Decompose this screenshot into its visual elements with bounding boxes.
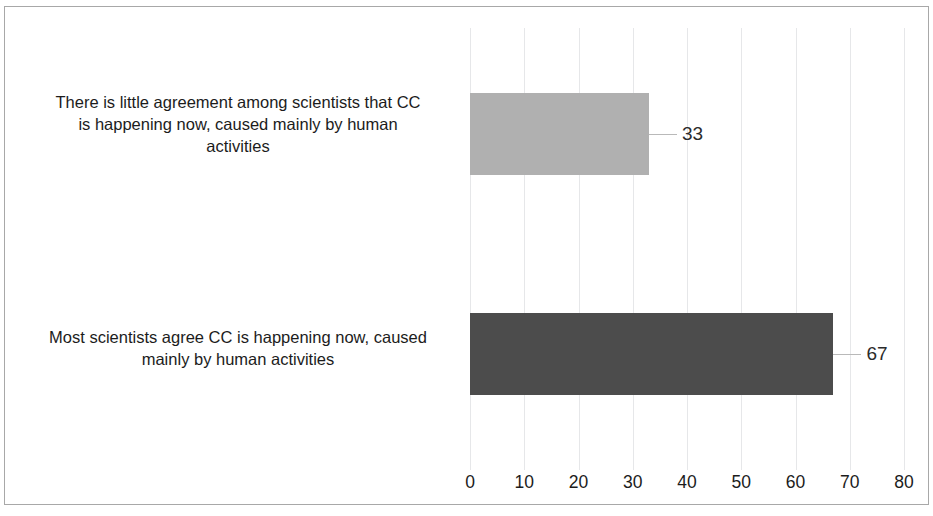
gridline-70 (850, 28, 851, 470)
category-label-2-line-1: Most scientists agree CC is happening no… (14, 327, 462, 349)
leader-line-2 (833, 354, 861, 355)
gridline-50 (741, 28, 742, 470)
x-tick-label-10: 10 (515, 474, 534, 492)
x-tick-label-40: 40 (677, 474, 696, 492)
gridline-40 (687, 28, 688, 470)
x-tick-label-60: 60 (786, 474, 805, 492)
x-tick-label-80: 80 (894, 474, 913, 492)
category-label-1-line-3: activities (14, 136, 462, 158)
plot-area (470, 28, 904, 470)
x-axis-tick-labels: 01020304050607080 (470, 474, 904, 502)
x-tick-label-20: 20 (569, 474, 588, 492)
category-label-1: There is little agreement among scientis… (14, 92, 462, 158)
x-tick-label-50: 50 (732, 474, 751, 492)
bar-1 (470, 93, 649, 175)
x-tick-label-30: 30 (623, 474, 642, 492)
category-label-1-line-2: is happening now, caused mainly by human (14, 114, 462, 136)
data-label-1: 33 (682, 124, 703, 143)
gridline-60 (796, 28, 797, 470)
category-label-1-line-1: There is little agreement among scientis… (14, 92, 462, 114)
data-label-2: 67 (866, 344, 887, 363)
bar-2 (470, 313, 833, 395)
leader-line-1 (649, 134, 677, 135)
category-label-2: Most scientists agree CC is happening no… (14, 327, 462, 371)
x-tick-label-70: 70 (840, 474, 859, 492)
category-label-2-line-2: mainly by human activities (14, 349, 462, 371)
x-tick-label-0: 0 (465, 474, 475, 492)
bar-chart-figure: 3367 There is little agreement among sci… (0, 0, 933, 516)
gridline-80 (904, 28, 905, 470)
